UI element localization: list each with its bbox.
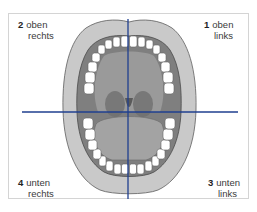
quadrant-number: 4 bbox=[18, 177, 23, 188]
quadrant-2-label: 2oben rechts bbox=[18, 19, 54, 41]
quadrant-line2: rechts bbox=[18, 188, 54, 199]
quadrant-line1: unten bbox=[26, 177, 50, 188]
quadrant-line1: unten bbox=[216, 177, 240, 188]
tongue bbox=[94, 117, 164, 161]
quadrant-line2: rechts bbox=[18, 30, 54, 41]
tonsil-right bbox=[133, 91, 153, 117]
quadrant-line2: links bbox=[204, 30, 233, 41]
quadrant-4-label: 4unten rechts bbox=[18, 177, 54, 199]
quadrant-line1: oben bbox=[212, 19, 233, 30]
tonsil-left bbox=[105, 91, 125, 117]
quadrant-line2: links bbox=[208, 188, 240, 199]
quadrant-1-label: 1oben links bbox=[204, 19, 233, 41]
quadrant-number: 3 bbox=[208, 177, 213, 188]
quadrant-number: 1 bbox=[204, 19, 209, 30]
quadrant-3-label: 3unten links bbox=[208, 177, 240, 199]
quadrant-line1: oben bbox=[26, 19, 47, 30]
quadrant-number: 2 bbox=[18, 19, 23, 30]
